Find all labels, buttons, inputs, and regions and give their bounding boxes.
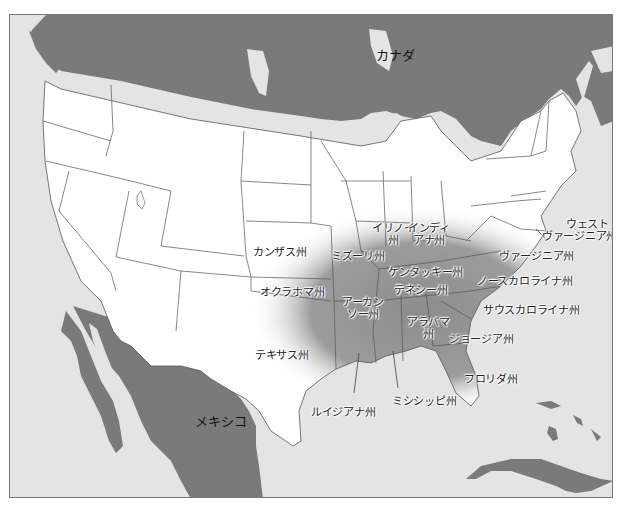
label-alabama: アラバマ 州 (407, 317, 450, 341)
label-arkansas-line2: ソー州 (342, 309, 384, 321)
label-kentucky: ケンタッキー州 (388, 267, 463, 279)
label-south-carolina: サウスカロライナ州 (483, 305, 579, 317)
label-georgia: ジョージア州 (449, 334, 513, 346)
label-kansas: カンザス州 (253, 247, 307, 259)
label-west-virginia-line2: ヴァージニア州 (542, 231, 613, 243)
label-mississippi: ミシシッピ州 (392, 396, 456, 408)
label-mexico: メキシコ (195, 416, 247, 428)
label-canada: カナダ (376, 50, 415, 62)
label-missouri: ミズーリ州 (331, 251, 385, 263)
label-indiana: インディ アナ州 (408, 223, 450, 247)
label-virginia: ヴァージニア州 (499, 251, 574, 263)
map-frame: カナダ メキシコ カンザス州 オクラホマ州 テキサス州 ミズーリ州 イリノイ 州… (9, 14, 613, 498)
label-west-virginia: ウェスト ヴァージニア州 (542, 219, 613, 243)
label-arkansas: アーカン ソー州 (342, 297, 384, 321)
label-alabama-line2: 州 (407, 329, 450, 341)
label-florida: フロリダ州 (464, 374, 518, 386)
label-north-carolina: ノースカロライナ州 (477, 276, 572, 288)
label-texas: テキサス州 (255, 350, 309, 362)
label-louisiana: ルイジアナ州 (311, 407, 375, 419)
label-oklahoma: オクラホマ州 (260, 287, 324, 299)
label-tennessee: テネシー州 (394, 285, 448, 297)
label-indiana-line2: アナ州 (408, 235, 450, 247)
